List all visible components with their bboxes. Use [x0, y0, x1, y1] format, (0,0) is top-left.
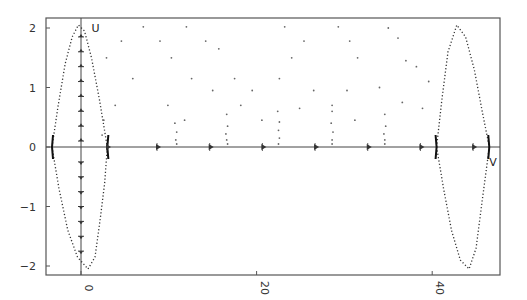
- data-point: [103, 119, 105, 121]
- data-point: [226, 139, 228, 141]
- data-point: [303, 40, 305, 42]
- vertical-arrow-icon: [79, 251, 83, 254]
- data-point: [159, 40, 161, 42]
- data-point: [384, 139, 386, 141]
- data-point: [142, 26, 144, 28]
- data-point: [186, 26, 188, 28]
- data-point: [405, 60, 407, 62]
- data-point: [251, 90, 253, 92]
- data-point: [227, 125, 229, 127]
- data-point: [416, 66, 418, 68]
- data-point: [184, 119, 186, 121]
- axis-ticks: 210−1−202040: [20, 22, 446, 295]
- data-point: [331, 143, 333, 145]
- data-point: [132, 78, 134, 80]
- data-point: [278, 143, 280, 145]
- cascade-clusters: [174, 110, 387, 145]
- y-tick-label: 1: [29, 82, 36, 95]
- right-orbit-upper: [436, 25, 490, 147]
- data-point: [346, 90, 348, 92]
- data-point: [332, 131, 334, 133]
- orbit-crossing: [52, 147, 53, 159]
- data-point: [218, 48, 220, 50]
- data-point: [379, 87, 381, 89]
- data-point: [226, 113, 228, 115]
- y-tick-label: −2: [20, 260, 36, 273]
- data-point: [212, 90, 214, 92]
- data-point: [176, 131, 178, 133]
- vertical-arrow-icon: [79, 162, 83, 165]
- data-point: [234, 78, 236, 80]
- data-point: [261, 119, 263, 121]
- data-point: [167, 104, 169, 106]
- vertical-arrow-icon: [79, 192, 83, 195]
- scattered-points: [101, 26, 429, 136]
- vertical-arrow-icon: [79, 93, 83, 96]
- data-point: [313, 90, 315, 92]
- data-point: [279, 121, 281, 123]
- data-point: [278, 129, 280, 131]
- vertical-arrow-icon: [79, 108, 83, 111]
- data-point: [106, 57, 108, 59]
- orbit-crossing: [488, 135, 489, 147]
- data-point: [291, 57, 293, 59]
- orbit-crossing: [436, 147, 437, 159]
- orbit-crossing: [52, 135, 53, 147]
- vertical-arrow-icon: [79, 221, 83, 224]
- data-point: [174, 122, 176, 124]
- data-point: [337, 26, 339, 28]
- data-point: [354, 119, 356, 121]
- orbit-curve: [437, 147, 490, 269]
- orbit-crossing: [436, 135, 437, 147]
- data-point: [384, 143, 386, 145]
- data-point: [397, 37, 399, 39]
- annotation-u: U: [92, 22, 100, 35]
- data-point: [277, 110, 279, 112]
- vertical-arrow-icon: [79, 64, 83, 67]
- x-tick-label: 40: [433, 281, 446, 295]
- data-point: [279, 137, 281, 139]
- data-point: [331, 139, 333, 141]
- data-point: [191, 78, 193, 80]
- vertical-arrow-icon: [79, 79, 83, 82]
- data-point: [171, 57, 173, 59]
- annotation-v: V: [489, 156, 497, 169]
- data-point: [240, 104, 242, 106]
- vertical-arrow-icon: [79, 123, 83, 126]
- vertical-arrow-icon: [79, 138, 83, 141]
- x-tick-label: 0: [82, 285, 95, 292]
- data-point: [175, 139, 177, 141]
- orbit-curve: [437, 25, 490, 147]
- phase-portrait-chart: 210−1−202040 UV: [0, 0, 527, 300]
- data-point: [383, 133, 385, 135]
- data-point: [205, 40, 207, 42]
- plot-frame: [46, 18, 500, 275]
- data-point: [331, 104, 333, 106]
- data-point: [114, 104, 116, 106]
- data-point: [227, 143, 229, 145]
- right-orbit-lower: [436, 147, 490, 269]
- vertical-arrow-icon: [79, 49, 83, 52]
- data-point: [330, 122, 332, 124]
- orbit-curve: [52, 25, 107, 147]
- left-orbit-upper: [52, 25, 108, 147]
- x-tick-label: 20: [258, 281, 271, 295]
- data-point: [176, 143, 178, 145]
- vertical-arrow-icon: [79, 207, 83, 210]
- data-point: [121, 40, 123, 42]
- data-point: [401, 102, 403, 104]
- vertical-arrow-icon: [79, 177, 83, 180]
- vertical-arrow-icon: [79, 34, 83, 37]
- data-point: [349, 40, 351, 42]
- data-point: [101, 134, 103, 136]
- y-tick-label: 2: [29, 22, 36, 35]
- data-point: [357, 57, 359, 59]
- data-point: [385, 125, 387, 127]
- data-point: [331, 110, 333, 112]
- y-tick-label: −1: [20, 201, 36, 214]
- data-point: [428, 81, 430, 83]
- data-point: [384, 113, 386, 115]
- data-point: [279, 78, 281, 80]
- data-point: [387, 27, 389, 29]
- y-tick-label: 0: [29, 141, 36, 154]
